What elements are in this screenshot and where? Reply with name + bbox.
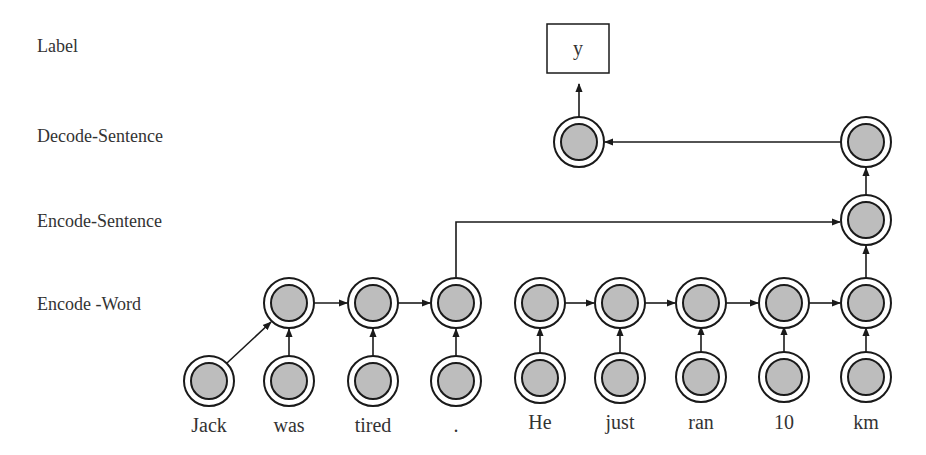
input-node-just	[595, 353, 645, 403]
encode-word-node-tired	[348, 278, 398, 328]
output-label-text: y	[573, 37, 583, 60]
decode-sentence-node	[841, 117, 891, 167]
word-label: tired	[355, 414, 392, 436]
word-label: .	[454, 414, 459, 436]
word-label: Jack	[191, 414, 227, 436]
word-label: was	[273, 414, 304, 436]
output-label-box: y	[547, 24, 609, 73]
input-node-period	[431, 356, 481, 406]
word-label: 10	[774, 411, 794, 433]
input-node-he	[515, 353, 565, 403]
encode-word-node-period	[431, 278, 481, 328]
encode-word-node-ran	[676, 278, 726, 328]
row-label-encode-word: Encode -Word	[37, 294, 141, 314]
encode-sentence-node	[841, 195, 891, 245]
row-label-encode-sentence: Encode-Sentence	[37, 211, 162, 231]
encode-word-node-10	[759, 278, 809, 328]
input-node-km	[841, 352, 891, 402]
input-node-was	[264, 356, 314, 406]
encode-word-node-was	[264, 278, 314, 328]
encode-word-node-he	[515, 278, 565, 328]
input-node-10	[759, 352, 809, 402]
input-node-ran	[676, 352, 726, 402]
decode-sentence-node-output	[554, 117, 604, 167]
hierarchical-encoder-diagram: Label Decode-Sentence Encode-Sentence En…	[0, 0, 926, 455]
word-label: He	[528, 411, 551, 433]
word-label: km	[853, 411, 879, 433]
input-node-jack	[184, 356, 234, 406]
input-node-tired	[348, 356, 398, 406]
row-label-label: Label	[37, 36, 78, 56]
row-label-decode-sentence: Decode-Sentence	[37, 126, 163, 146]
encode-word-node-km	[841, 278, 891, 328]
word-label: ran	[688, 411, 714, 433]
encode-word-node-just	[595, 278, 645, 328]
word-label: just	[605, 411, 635, 434]
